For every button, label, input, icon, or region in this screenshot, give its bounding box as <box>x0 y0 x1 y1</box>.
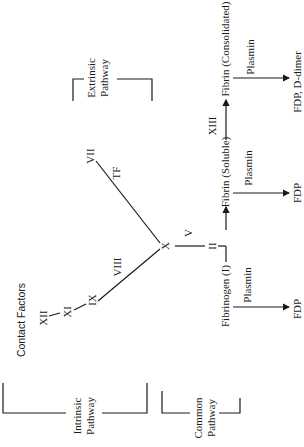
factor-xi: XI <box>61 306 73 318</box>
common-line2: Pathway <box>205 398 218 439</box>
factor-ix: IX <box>86 294 98 306</box>
xi-ix-link <box>74 304 86 310</box>
common-pathway-label: Common Pathway <box>192 398 218 439</box>
xii-xi-link <box>49 313 60 316</box>
factor-v: V <box>182 229 194 237</box>
ix-x-link <box>98 249 160 301</box>
vii-x-link <box>96 161 160 243</box>
extrinsic-pathway-label: Extrinsic Pathway <box>85 58 111 98</box>
extrinsic-line2: Pathway <box>98 58 111 98</box>
plasmin-label-3: Plasmin <box>244 39 256 74</box>
extrinsic-line1: Extrinsic <box>85 58 98 98</box>
factor-tf: TF <box>110 167 122 180</box>
intrinsic-pathway-label: Intrinsic Pathway <box>71 397 97 435</box>
fdp-product-2: FDP <box>291 183 303 203</box>
factor-ii: II <box>206 242 218 249</box>
fdp-product-1: FDP <box>291 299 303 319</box>
factor-xii: XII <box>37 310 49 325</box>
diagram-lines <box>0 0 304 447</box>
fdp-d-dimer-product: FDP, D-dimer <box>291 51 303 113</box>
factor-viii: VIII <box>111 258 123 277</box>
factor-x: X <box>159 242 171 250</box>
factor-xiii: XIII <box>206 117 218 136</box>
fibrin-consolidated-node: Fibrin (Consolidated) <box>219 1 231 96</box>
fibrin-soluble-node: Fibrin (Soluble) <box>219 137 231 208</box>
plasmin-label-1: Plasmin <box>241 267 253 302</box>
plasmin-label-2: Plasmin <box>242 150 254 185</box>
contact-factors-label: Contact Factors <box>15 283 27 357</box>
common-line1: Common <box>192 398 205 439</box>
fibrinogen-node: Fibrinogen (I) <box>219 265 231 327</box>
intrinsic-line1: Intrinsic <box>71 397 84 435</box>
intrinsic-line2: Pathway <box>84 397 97 435</box>
factor-vii: VII <box>84 148 96 163</box>
